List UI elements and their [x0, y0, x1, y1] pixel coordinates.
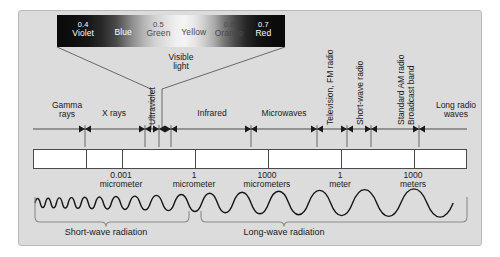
- swatch-name: Red: [246, 29, 280, 38]
- spectrum-swatch-violet: 0.4 Violet: [62, 21, 105, 37]
- band-line-1: Infrared: [197, 108, 226, 118]
- swatch-name: Blue: [105, 28, 141, 37]
- visible-light-spectrum-bar: 0.4 Violet Blue 0.5 Green Yellow 0.6 Ora…: [57, 15, 285, 47]
- visible-light-callout-label: Visible light: [149, 53, 213, 72]
- electromagnetic-spectrum-figure: 0.4 Violet Blue 0.5 Green Yellow 0.6 Ora…: [18, 10, 482, 246]
- tick-unit: micrometers: [228, 180, 306, 189]
- scale-divider: [414, 150, 415, 168]
- band-label-x-rays: X rays: [88, 109, 140, 118]
- scale-divider: [122, 150, 123, 168]
- swatch-name: Yellow: [176, 28, 212, 37]
- band-line-1: Ultraviolet: [147, 87, 157, 125]
- band-label-short-wave-radio: Short-wave radio: [356, 39, 365, 125]
- scale-divider: [268, 150, 269, 168]
- band-line-1: Short-wave radio: [355, 61, 365, 125]
- scale-divider: [195, 150, 196, 168]
- short-wave-radiation-text: Short-wave radiation: [65, 227, 148, 237]
- band-line-1: Standard AM radio: [396, 55, 406, 125]
- tick-unit: micrometer: [82, 180, 160, 189]
- callout-line-2: light: [173, 61, 189, 71]
- band-line-1: Television, FM radio: [325, 49, 335, 125]
- swatch-name: Violet: [62, 29, 105, 38]
- tick-unit: meters: [374, 180, 452, 189]
- spectrum-swatch-yellow: Yellow: [176, 28, 212, 37]
- scale-divider: [341, 150, 342, 168]
- band-label-ultraviolet: Ultraviolet: [148, 77, 157, 125]
- boundary-arrow-caps: [79, 126, 425, 133]
- scale-tick-label-1-meter: 1 meter: [301, 171, 379, 189]
- spectrum-swatch-blue: Blue: [105, 28, 141, 37]
- swatch-name: Orange: [210, 29, 249, 38]
- wavelength-scale-box: [33, 149, 467, 169]
- spectrum-swatch-green: 0.5 Green: [139, 21, 178, 37]
- band-line-2: Broadcast band: [406, 65, 416, 125]
- band-label-standard-am-radio: Standard AM radio: [397, 35, 406, 125]
- short-wave-radiation-label: Short-wave radiation: [41, 227, 171, 237]
- scale-tick-label-1000-micrometers: 1000 micrometers: [228, 171, 306, 189]
- scale-tick-label-1000-meters: 1000 meters: [374, 171, 452, 189]
- swatch-name: Green: [139, 29, 178, 38]
- band-label-infrared: Infrared: [181, 109, 243, 118]
- tick-unit: meter: [301, 180, 379, 189]
- scale-tick-label-0-001-micrometer: 0.001 micrometer: [82, 171, 160, 189]
- wavelength-illustration-curve: [35, 189, 453, 217]
- band-label-microwaves: Microwaves: [249, 109, 319, 118]
- radiation-braces: [35, 197, 467, 227]
- band-line-1: X rays: [102, 108, 126, 118]
- band-label-long-radio-waves: Long radio waves: [425, 101, 487, 119]
- long-wave-radiation-label: Long-wave radiation: [219, 227, 349, 237]
- long-wave-radiation-text: Long-wave radiation: [243, 227, 324, 237]
- spectrum-swatch-orange: 0.6 Orange: [210, 21, 249, 37]
- band-line-2: waves: [444, 109, 468, 119]
- spectrum-swatch-red: 0.7 Red: [246, 21, 280, 37]
- tick-unit: micrometer: [155, 180, 233, 189]
- band-line-1: Microwaves: [262, 108, 307, 118]
- scale-divider: [86, 150, 87, 168]
- scale-tick-label-1-micrometer: 1 micrometer: [155, 171, 233, 189]
- band-boundary-ticks: [85, 125, 419, 147]
- band-line-2: rays: [59, 109, 75, 119]
- band-label-television-fm-radio: Television, FM radio: [326, 27, 335, 125]
- band-label-standard-am-broadcast-band: Broadcast band: [407, 35, 416, 125]
